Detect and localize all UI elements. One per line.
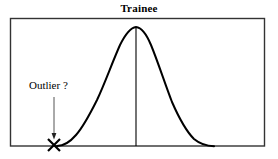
chart-figure: Trainee Outlier ? [0, 0, 278, 159]
outlier-annotation-label: Outlier ? [29, 79, 68, 92]
